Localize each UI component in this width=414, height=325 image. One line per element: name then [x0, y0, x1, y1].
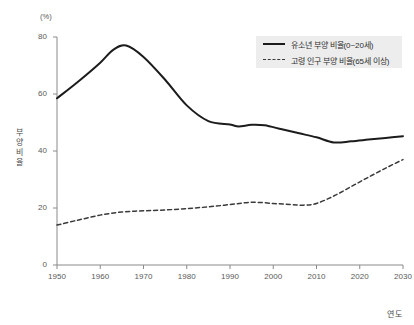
- series-line-2: [57, 160, 403, 226]
- x-tick-label: 2000: [258, 272, 288, 281]
- line-chart: (%) 부양 비율 연도 020406080 19501960197019801…: [0, 0, 414, 325]
- x-tick-label: 1990: [215, 272, 245, 281]
- chart-legend: 유소년 부양 비율(0~20세) 고령 인구 부양 비율(65세 이상): [256, 36, 402, 68]
- y-tick-label: 60: [25, 89, 47, 98]
- legend-item-label: 고령 인구 부양 비율(65세 이상): [291, 55, 389, 66]
- tick-marks: [53, 37, 403, 269]
- x-tick-label: 2020: [345, 272, 375, 281]
- legend-dashed-line-icon: [263, 55, 285, 65]
- x-tick-label: 1980: [172, 272, 202, 281]
- y-tick-label: 80: [25, 32, 47, 41]
- series-lines: [57, 45, 403, 225]
- x-tick-label: 1960: [85, 272, 115, 281]
- legend-solid-line-icon: [263, 39, 285, 49]
- legend-item-label: 유소년 부양 비율(0~20세): [291, 39, 373, 50]
- legend-item-youth: 유소년 부양 비율(0~20세): [256, 36, 402, 52]
- legend-item-elderly: 고령 인구 부양 비율(65세 이상): [256, 52, 402, 68]
- x-tick-label: 2010: [302, 272, 332, 281]
- axis-lines: [57, 37, 403, 265]
- x-tick-label: 1950: [42, 272, 72, 281]
- y-tick-label: 0: [25, 260, 47, 269]
- y-tick-label: 20: [25, 203, 47, 212]
- x-tick-label: 1970: [129, 272, 159, 281]
- x-tick-label: 2030: [388, 272, 414, 281]
- y-tick-label: 40: [25, 146, 47, 155]
